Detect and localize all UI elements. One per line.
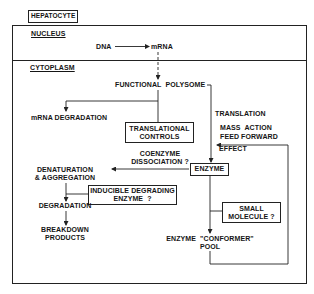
connector-lines: [0, 0, 314, 294]
